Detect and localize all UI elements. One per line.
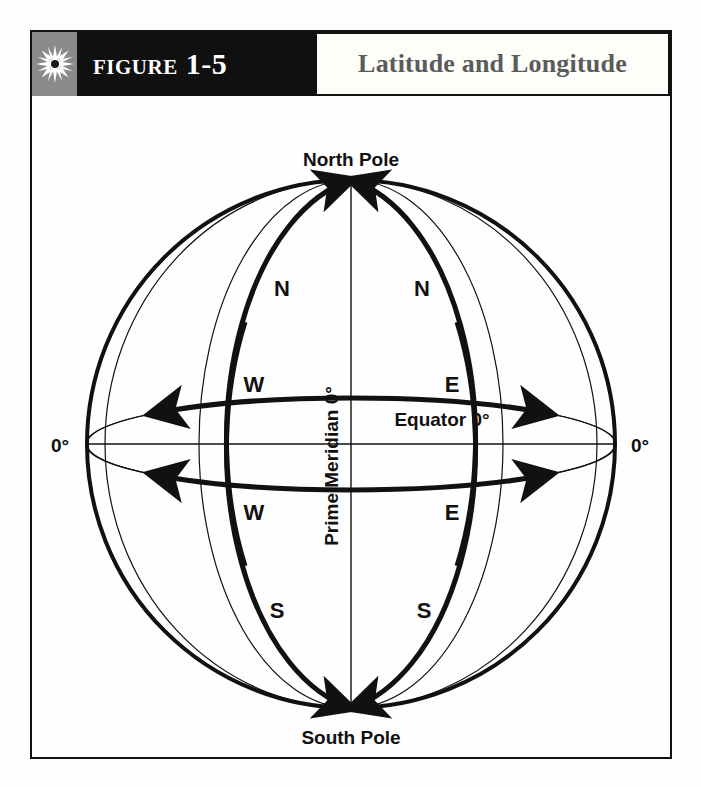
latitude-tail-west-upper xyxy=(89,414,151,437)
sunburst-icon xyxy=(35,44,75,84)
latitude-tail-west-lower xyxy=(89,451,151,474)
label-hemisphere-south-west: S xyxy=(270,598,285,623)
latitude-arc-east-lower xyxy=(351,474,551,490)
label-longitude-west-lower: W xyxy=(244,500,265,525)
label-longitude-west-upper: W xyxy=(244,372,265,397)
label-zero-degrees-left: 0° xyxy=(51,435,69,456)
label-zero-degrees-right: 0° xyxy=(631,435,649,456)
figure-number: Figure 1-5 xyxy=(93,47,227,81)
label-longitude-east-upper: E xyxy=(445,372,460,397)
figure-title-container: Latitude and Longitude xyxy=(317,32,670,96)
label-equator: Equator 0° xyxy=(394,409,489,430)
label-hemisphere-south-east: S xyxy=(417,598,432,623)
label-hemisphere-north-east: N xyxy=(414,276,430,301)
label-prime-meridian: Prime Meridian 0° xyxy=(321,386,342,546)
figure-number-container: Figure 1-5 xyxy=(77,32,317,96)
label-longitude-east-lower: E xyxy=(445,500,460,525)
figure-header: Figure 1-5 Latitude and Longitude xyxy=(32,32,670,96)
label-north-pole: North Pole xyxy=(303,149,399,170)
label-hemisphere-north-west: N xyxy=(274,276,290,301)
header-icon-container xyxy=(32,32,77,96)
globe-svg: North Pole South Pole N N S S W E W E Eq… xyxy=(32,96,670,757)
label-south-pole: South Pole xyxy=(301,727,400,748)
figure-title: Latitude and Longitude xyxy=(358,49,627,79)
figure-card: Figure 1-5 Latitude and Longitude xyxy=(30,30,672,759)
latitude-tail-east-lower xyxy=(551,451,613,474)
globe-diagram: North Pole South Pole N N S S W E W E Eq… xyxy=(32,96,670,757)
latitude-tail-east-upper xyxy=(551,414,613,437)
